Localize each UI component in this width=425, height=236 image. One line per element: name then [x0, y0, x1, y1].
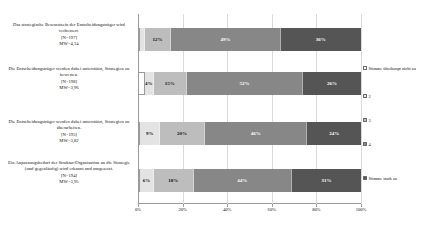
bar-segment: 9% — [140, 122, 160, 145]
bar-segment: 31% — [292, 169, 361, 192]
gridline-100 — [361, 14, 362, 204]
bar-segment-label: 31% — [321, 178, 331, 183]
category-label-text: Ein Anpassungsbedarf der Struktur/Organi… — [8, 160, 130, 173]
legend-label: Stimme überhaupt nicht zu — [369, 66, 416, 72]
bar-segment: 26% — [303, 72, 361, 95]
legend-item[interactable]: Stimme stark zu — [363, 176, 423, 182]
category-label-text: Die Entscheidungsträger werden dabei unt… — [8, 119, 130, 132]
bar-segment-label: 18% — [168, 178, 178, 183]
x-axis-line — [138, 203, 361, 204]
bar-segment: 12% — [145, 28, 172, 51]
category-label-mw: MW=3,95 — [8, 179, 130, 185]
bar-segment: 6% — [140, 169, 153, 192]
category-label-text: Das strategische Bewusstsein der Entsche… — [8, 22, 130, 35]
category-label-mw: MW=4,14 — [8, 41, 130, 47]
bar-row: 6%18%44%31% — [138, 169, 361, 192]
bar-segment: 24% — [307, 122, 361, 145]
bar-segment-label: 52% — [240, 81, 250, 86]
bar-segment: 36% — [281, 28, 361, 51]
bar-segment-label: 12% — [153, 37, 163, 42]
legend-swatch-icon — [363, 142, 367, 146]
category-label-0: Das strategische Bewusstsein der Entsche… — [8, 22, 130, 47]
bar-segment-label: 44% — [237, 178, 247, 183]
bar-segment-label: 26% — [327, 81, 337, 86]
legend-item[interactable]: 2 — [363, 94, 423, 100]
legend-swatch-icon — [363, 66, 367, 70]
bar-segment-label: 9% — [146, 131, 154, 136]
bar-segment: 18% — [154, 169, 194, 192]
chart-container: Das strategische Bewusstsein der Entsche… — [0, 0, 425, 236]
bar-row: 12%49%36% — [138, 28, 361, 51]
bar-segment-label: 24% — [329, 131, 339, 136]
bar-segment-label: 4% — [145, 81, 153, 86]
plot-area: 12%49%36%4%15%52%26%9%20%46%24%6%18%44%3… — [138, 14, 361, 204]
bar-segment: 4% — [145, 72, 154, 95]
x-tick-label: 40% — [223, 207, 231, 212]
bar-segment-label: 36% — [316, 37, 326, 42]
legend-label: 2 — [369, 94, 371, 100]
x-tick-label: 0% — [135, 207, 141, 212]
bar-segment: 44% — [194, 169, 292, 192]
legend-item[interactable]: Stimme überhaupt nicht zu — [363, 66, 423, 72]
bar-segment — [138, 72, 145, 95]
category-label-text: Die Entscheidungsträger werden dabei unt… — [8, 66, 130, 79]
x-tick-label: 100% — [356, 207, 367, 212]
x-tick-label: 20% — [178, 207, 186, 212]
legend-item[interactable]: 4 — [363, 142, 423, 148]
bar-segment: 49% — [171, 28, 280, 51]
legend-label: 4 — [369, 142, 371, 148]
category-label-mw: MW=3,82 — [8, 138, 130, 144]
legend-item[interactable]: 3 — [363, 118, 423, 124]
x-tick-label: 60% — [268, 207, 276, 212]
legend-swatch-icon — [363, 118, 367, 122]
bar-row: 4%15%52%26% — [138, 72, 361, 95]
bar-segment: 15% — [154, 72, 187, 95]
category-label-2: Die Entscheidungsträger werden dabei unt… — [8, 119, 130, 144]
bar-segment: 46% — [205, 122, 308, 145]
bar-segment-label: 20% — [177, 131, 187, 136]
x-tick-label: 80% — [312, 207, 320, 212]
category-label-mw: MW=3,96 — [8, 85, 130, 91]
bar-segment: 20% — [160, 122, 205, 145]
bar-segment-label: 6% — [143, 178, 151, 183]
bar-segment-label: 46% — [251, 131, 261, 136]
bar-segment: 52% — [187, 72, 303, 95]
category-label-1: Die Entscheidungsträger werden dabei unt… — [8, 66, 130, 91]
bar-row: 9%20%46%24% — [138, 122, 361, 145]
legend-label: Stimme stark zu — [369, 176, 398, 182]
legend-swatch-icon — [363, 176, 367, 180]
legend-label: 3 — [369, 118, 371, 124]
bar-segment-label: 15% — [165, 81, 175, 86]
bar-segment-label: 49% — [221, 37, 231, 42]
category-label-3: Ein Anpassungsbedarf der Struktur/Organi… — [8, 160, 130, 185]
legend-swatch-icon — [363, 94, 367, 98]
